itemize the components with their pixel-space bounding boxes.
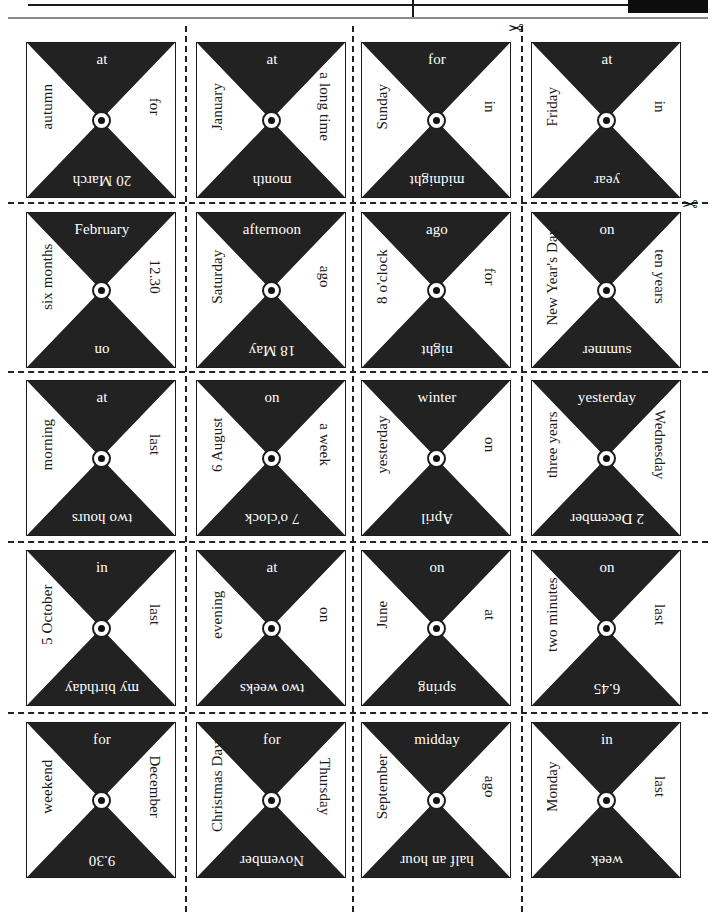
spinner-card[interactable]: inweekMondaylast: [531, 722, 681, 878]
spinner-pivot-dot: [98, 625, 105, 632]
cut-guide-horizontal-4: [8, 712, 708, 714]
header-rule-bottom: [8, 17, 708, 19]
spinner-pivot[interactable]: [597, 449, 616, 468]
cut-guide-vertical-1: [185, 26, 187, 912]
spinner-card[interactable]: inmy birthday5 Octoberlast: [26, 550, 176, 706]
header-black-block: [628, 0, 708, 13]
spinner-card-face: Februaryonsix months12.30: [27, 213, 175, 367]
spinner-card-face: yesterday2 Decemberthree yearsWednesday: [532, 381, 680, 535]
page-header-band: [0, 0, 716, 22]
spinner-pivot[interactable]: [262, 111, 281, 130]
spinner-pivot[interactable]: [597, 111, 616, 130]
spinner-pivot[interactable]: [92, 281, 111, 300]
spinner-card[interactable]: agonight8 o'clockfor: [361, 212, 511, 368]
spinner-card[interactable]: at20 Marchautumnfor: [26, 42, 176, 198]
spinner-pivot-dot: [603, 287, 610, 294]
cut-guide-horizontal-2: [8, 371, 708, 373]
spinner-pivot-dot: [603, 455, 610, 462]
spinner-pivot-dot: [603, 625, 610, 632]
spinner-pivot-dot: [433, 287, 440, 294]
spinner-card-face: forNovemberChristmas DayThursday: [197, 723, 345, 877]
spinner-pivot[interactable]: [92, 111, 111, 130]
spinner-card-face: formidnightSundayin: [362, 43, 510, 197]
scissors-cut-mark-right: ✂: [682, 194, 698, 213]
spinner-card[interactable]: on6.45two minuteslast: [531, 550, 681, 706]
spinner-pivot[interactable]: [262, 619, 281, 638]
cut-guide-vertical-2: [352, 26, 354, 912]
cut-guide-horizontal-1: [8, 202, 708, 204]
spinner-card[interactable]: attwo hoursmorninglast: [26, 380, 176, 536]
spinner-card[interactable]: for9.30weekendDecember: [26, 722, 176, 878]
spinner-card-face: on7 o'clock6 Augusta week: [197, 381, 345, 535]
spinner-card-face: agonight8 o'clockfor: [362, 213, 510, 367]
spinner-pivot-dot: [433, 117, 440, 124]
spinner-card-face: afternoon18 MaySaturdayago: [197, 213, 345, 367]
spinner-card[interactable]: onsummerNew Year's Dayten years: [531, 212, 681, 368]
spinner-pivot-dot: [603, 117, 610, 124]
spinner-pivot-dot: [268, 625, 275, 632]
spinner-pivot[interactable]: [427, 449, 446, 468]
spinner-pivot-dot: [98, 287, 105, 294]
spinner-card[interactable]: yesterday2 Decemberthree yearsWednesday: [531, 380, 681, 536]
spinner-pivot[interactable]: [597, 281, 616, 300]
spinner-card-face: attwo hoursmorninglast: [27, 381, 175, 535]
spinner-pivot[interactable]: [427, 619, 446, 638]
spinner-card-face: atyearFridayin: [532, 43, 680, 197]
scissors-cut-mark-top: ✂: [508, 18, 524, 37]
spinner-pivot[interactable]: [92, 449, 111, 468]
spinner-card[interactable]: winterAprilyesterdayon: [361, 380, 511, 536]
spinner-card-face: onsummerNew Year's Dayten years: [532, 213, 680, 367]
spinner-card-face: inmy birthday5 Octoberlast: [27, 551, 175, 705]
spinner-card[interactable]: atmonthJanuarya long time: [196, 42, 346, 198]
spinner-pivot-dot: [268, 117, 275, 124]
spinner-card[interactable]: Februaryonsix months12.30: [26, 212, 176, 368]
spinner-pivot-dot: [98, 117, 105, 124]
spinner-pivot-dot: [603, 797, 610, 804]
spinner-card[interactable]: on7 o'clock6 Augusta week: [196, 380, 346, 536]
spinner-pivot-dot: [433, 797, 440, 804]
spinner-pivot[interactable]: [427, 791, 446, 810]
spinner-card[interactable]: afternoon18 MaySaturdayago: [196, 212, 346, 368]
spinner-card-face: middayhalf an hourSeptemberago: [362, 723, 510, 877]
spinner-pivot[interactable]: [597, 619, 616, 638]
spinner-card[interactable]: attwo weekseveningon: [196, 550, 346, 706]
spinner-card-face: for9.30weekendDecember: [27, 723, 175, 877]
spinner-pivot[interactable]: [427, 111, 446, 130]
spinner-pivot[interactable]: [262, 791, 281, 810]
spinner-pivot[interactable]: [92, 619, 111, 638]
spinner-pivot-dot: [433, 625, 440, 632]
spinner-card-face: winterAprilyesterdayon: [362, 381, 510, 535]
spinner-pivot[interactable]: [597, 791, 616, 810]
spinner-pivot-dot: [98, 455, 105, 462]
spinner-card-face: at20 Marchautumnfor: [27, 43, 175, 197]
spinner-pivot-dot: [268, 287, 275, 294]
spinner-card[interactable]: onspringJuneat: [361, 550, 511, 706]
spinner-pivot[interactable]: [92, 791, 111, 810]
spinner-card-face: attwo weekseveningon: [197, 551, 345, 705]
spinner-card[interactable]: formidnightSundayin: [361, 42, 511, 198]
header-rule-top: [28, 4, 688, 6]
spinner-card[interactable]: middayhalf an hourSeptemberago: [361, 722, 511, 878]
spinner-pivot[interactable]: [427, 281, 446, 300]
spinner-pivot-dot: [268, 455, 275, 462]
cut-guide-vertical-3: [521, 26, 523, 912]
spinner-card-face: onspringJuneat: [362, 551, 510, 705]
spinner-card[interactable]: atyearFridayin: [531, 42, 681, 198]
cut-guide-horizontal-3: [8, 541, 708, 543]
spinner-pivot[interactable]: [262, 449, 281, 468]
spinner-card[interactable]: forNovemberChristmas DayThursday: [196, 722, 346, 878]
card-sheet: at20 MarchautumnforatmonthJanuarya long …: [0, 22, 716, 917]
spinner-pivot-dot: [98, 797, 105, 804]
spinner-card-face: inweekMondaylast: [532, 723, 680, 877]
header-divider: [412, 0, 414, 17]
spinner-card-face: atmonthJanuarya long time: [197, 43, 345, 197]
spinner-pivot-dot: [433, 455, 440, 462]
spinner-card-face: on6.45two minuteslast: [532, 551, 680, 705]
spinner-pivot-dot: [268, 797, 275, 804]
spinner-pivot[interactable]: [262, 281, 281, 300]
